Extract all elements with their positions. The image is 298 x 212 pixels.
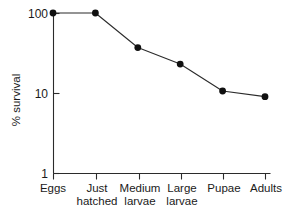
x-label-just-hatched-line2: hatched <box>77 195 118 207</box>
x-label-eggs: Eggs <box>40 182 66 194</box>
x-label-large-larvae-line1: Large <box>167 182 196 194</box>
data-point <box>219 88 226 95</box>
y-tick-label-10: 10 <box>35 87 49 101</box>
data-point <box>134 44 141 51</box>
y-axis-title: % survival <box>10 74 22 126</box>
x-label-pupae: Pupae <box>207 182 240 194</box>
data-point <box>262 93 269 100</box>
x-label-large-larvae-line2: larvae <box>166 195 197 207</box>
y-tick-label-1: 1 <box>41 167 48 181</box>
x-label-medium-larvae-line2: larvae <box>124 195 155 207</box>
data-point <box>92 10 99 17</box>
survival-line-chart: 100 10 1 % survival Eggs Just hatched Me… <box>0 0 298 212</box>
x-label-medium-larvae-line1: Medium <box>120 182 161 194</box>
data-point <box>177 61 184 68</box>
x-label-just-hatched-line1: Just <box>86 182 108 194</box>
data-point <box>50 10 57 17</box>
y-tick-label-100: 100 <box>28 7 48 21</box>
chart-canvas: 100 10 1 % survival Eggs Just hatched Me… <box>0 0 298 212</box>
x-label-adults: Adults <box>250 182 282 194</box>
